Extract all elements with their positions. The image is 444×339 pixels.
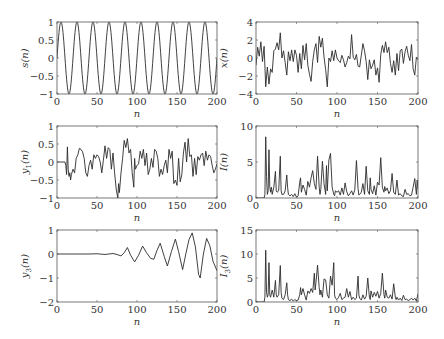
y-tick-label: 0	[48, 249, 54, 260]
y-tick-label: −1	[39, 193, 54, 204]
x-tick-label: 200	[207, 200, 226, 211]
y-axis-label: x(n)	[218, 48, 229, 68]
x-axis-label: n	[334, 108, 340, 119]
subplot-x: 050100150200−4−2024nx(n)	[218, 17, 428, 120]
y-axis-label: I3(n)	[218, 255, 232, 279]
x-tick-label: 150	[368, 304, 387, 315]
y-tick-label: −2	[39, 297, 54, 308]
x-tick-label: 100	[327, 304, 346, 315]
y-tick-label: −0.5	[30, 175, 54, 186]
x-axis-label: n	[134, 108, 140, 119]
x-tick-label: 100	[327, 96, 346, 107]
x-tick-label: 0	[54, 96, 60, 107]
x-tick-label: 100	[127, 304, 146, 315]
x-tick-label: 200	[207, 304, 226, 315]
x-tick-label: 150	[368, 96, 387, 107]
x-tick-label: 50	[91, 304, 104, 315]
x-axis-label: n	[334, 316, 340, 327]
x-tick-label: 0	[253, 304, 259, 315]
y-tick-label: −2	[238, 71, 253, 82]
x-tick-label: 50	[91, 200, 104, 211]
x-tick-label: 100	[127, 200, 146, 211]
subplot-s: 050100150200−1−0.500.51ns(n)	[19, 17, 227, 120]
y-tick-label: 0.5	[38, 35, 54, 46]
x-tick-label: 200	[408, 96, 427, 107]
y-tick-label: −4	[238, 89, 253, 100]
x-axis-label: n	[134, 212, 140, 223]
x-tick-label: 50	[290, 200, 303, 211]
y-tick-label: 0	[48, 53, 54, 64]
x-tick-label: 100	[327, 200, 346, 211]
axes-frame	[57, 126, 217, 198]
x-tick-label: 150	[167, 304, 186, 315]
y-axis-label: I(n)	[218, 153, 229, 172]
x-tick-label: 0	[54, 304, 60, 315]
y-tick-label: 0	[247, 297, 253, 308]
y-tick-label: 15	[240, 225, 253, 236]
x-tick-label: 200	[207, 96, 226, 107]
y-tick-label: 5	[247, 273, 253, 284]
x-tick-label: 100	[127, 96, 146, 107]
y-tick-label: 0	[247, 193, 253, 204]
y-tick-label: 0	[48, 157, 54, 168]
x-tick-label: 150	[167, 96, 186, 107]
y-tick-label: 5	[247, 157, 253, 168]
x-tick-label: 200	[408, 304, 427, 315]
y-tick-label: 0.5	[38, 139, 54, 150]
x-tick-label: 150	[167, 200, 186, 211]
subplot-y3: 050100150200−2−101ny3(n)	[19, 225, 227, 328]
y-tick-label: −1	[39, 89, 54, 100]
subplot-I: 0501001502000510nI(n)	[218, 121, 428, 224]
subplot-I3: 050100150200051015nI3(n)	[218, 225, 428, 328]
y-tick-label: 1	[48, 225, 54, 236]
x-axis-label: n	[334, 212, 340, 223]
data-line-y3	[57, 233, 217, 278]
y-tick-label: 0	[247, 53, 253, 64]
axes-frame	[57, 230, 217, 302]
x-tick-label: 200	[408, 200, 427, 211]
y-tick-label: 10	[240, 249, 253, 260]
data-line-x	[256, 33, 418, 87]
x-tick-label: 0	[54, 200, 60, 211]
y-tick-label: 1	[48, 17, 54, 28]
y-tick-label: 10	[240, 121, 253, 132]
y-tick-label: 1	[48, 121, 54, 132]
y-axis-label: y1(n)	[19, 150, 33, 175]
x-tick-label: 0	[253, 200, 259, 211]
data-line-I	[256, 137, 418, 198]
x-tick-label: 50	[290, 96, 303, 107]
x-tick-label: 50	[290, 304, 303, 315]
figure: 050100150200−1−0.500.51ns(n)050100150200…	[0, 0, 444, 339]
y-tick-label: 2	[247, 35, 253, 46]
y-tick-label: 4	[247, 17, 253, 28]
y-tick-label: −1	[39, 273, 54, 284]
subplot-y1: 050100150200−1−0.500.51ny1(n)	[19, 121, 227, 224]
y-axis-label: y3(n)	[19, 254, 33, 279]
x-tick-label: 0	[253, 96, 259, 107]
data-line-s	[57, 22, 217, 94]
y-tick-label: −0.5	[30, 71, 54, 82]
data-line-y1	[57, 139, 217, 198]
x-tick-label: 50	[91, 96, 104, 107]
data-line-I3	[256, 250, 418, 302]
y-axis-label: s(n)	[19, 48, 30, 67]
x-tick-label: 150	[368, 200, 387, 211]
x-axis-label: n	[134, 316, 140, 327]
